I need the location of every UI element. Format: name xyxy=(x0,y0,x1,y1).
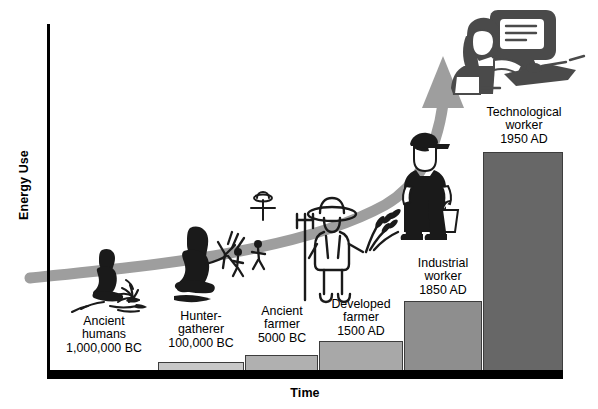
bar-ancient-farmer xyxy=(245,355,318,371)
industrial-worker-icon xyxy=(398,130,460,240)
x-axis-line xyxy=(47,370,563,379)
caption-technological-worker: Technological worker 1950 AD xyxy=(463,106,585,146)
bar-industrial-worker xyxy=(404,301,482,371)
farmer-with-pitchfork-icon xyxy=(290,192,410,310)
energy-use-over-time-chart: Energy Use Time Ancient humans 1,000,000… xyxy=(0,0,598,409)
computer-operator-icon xyxy=(438,4,588,96)
bar-technological-worker xyxy=(483,152,563,371)
cave-painter-icon xyxy=(160,218,280,310)
person-at-campfire-icon xyxy=(58,244,168,314)
scarecrow-farmer-icon xyxy=(243,186,283,226)
x-axis-label: Time xyxy=(255,386,355,400)
caption-industrial-worker: Industrial worker 1850 AD xyxy=(401,257,485,297)
y-axis-label: Energy Use xyxy=(17,139,31,231)
bar-developed-farmer xyxy=(319,341,403,371)
